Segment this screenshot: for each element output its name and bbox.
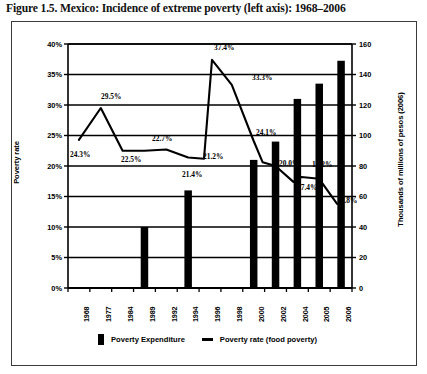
y-tick-left-30pct: 30% (36, 101, 62, 110)
legend-label-line: Poverty rate (food poverty) (220, 335, 317, 344)
x-tick-1998: 1998 (235, 307, 244, 322)
bar-swatch-icon (98, 334, 104, 345)
x-tick-1992: 1992 (170, 307, 179, 322)
value-label-24-1pct: 24.1% (256, 128, 276, 137)
y-tick-right-160: 160 (359, 40, 385, 49)
y-tick-right-20: 20 (359, 253, 385, 262)
x-tick-1994: 1994 (191, 307, 200, 322)
value-label-18-2pct: 18.2% (312, 160, 332, 169)
value-label-13-8pct: 13.8% (337, 196, 357, 205)
bar-2004 (294, 99, 302, 288)
value-label-22-5pct: 22.5% (121, 155, 141, 164)
y-tick-right-120: 120 (359, 101, 385, 110)
value-label-29-5pct: 29.5% (101, 92, 121, 101)
y-tick-left-35pct: 35% (36, 70, 62, 79)
value-label-22-7pct: 22.7% (152, 134, 172, 143)
y-tick-left-40pct: 40% (36, 40, 62, 49)
y-tick-left-20pct: 20% (36, 162, 62, 171)
y-axis-left-title: Poverty rate (12, 115, 21, 211)
bar-1989 (141, 227, 149, 288)
x-tick-2002: 2002 (279, 307, 288, 322)
y-tick-left-15pct: 15% (36, 192, 62, 201)
y-tick-right-140: 140 (359, 70, 385, 79)
y-tick-right-100: 100 (359, 131, 385, 140)
x-tick-1968: 1968 (82, 307, 91, 322)
chart-legend: Poverty Expenditure Poverty rate (food p… (98, 331, 348, 347)
bar-2000 (250, 160, 258, 288)
y-tick-left-0pct: 0% (36, 284, 62, 293)
x-tick-1977: 1977 (104, 307, 113, 322)
x-tick-2005: 2005 (322, 307, 331, 322)
value-label-37-4pct: 37.4% (214, 43, 234, 52)
y-tick-right-40: 40 (359, 223, 385, 232)
value-label-20-0pct: 20.0% (279, 159, 299, 168)
y-tick-left-10pct: 10% (36, 223, 62, 232)
x-tick-1989: 1989 (148, 307, 157, 322)
x-tick-2004: 2004 (301, 307, 310, 322)
bar-1994 (184, 190, 192, 288)
y-tick-right-60: 60 (359, 192, 385, 201)
y-axis-right-title: Thousands of millions of pesos (2006) (396, 80, 405, 240)
y-tick-left-25pct: 25% (36, 131, 62, 140)
bar-2006 (337, 61, 345, 288)
value-label-21-4pct: 21.4% (182, 170, 202, 179)
y-tick-left-5pct: 5% (36, 253, 62, 262)
y-tick-right-0: 0 (359, 284, 385, 293)
bar-series (141, 61, 345, 288)
legend-label-bar: Poverty Expenditure (111, 335, 185, 344)
value-label-24-3pct: 24.3% (70, 150, 90, 159)
line-swatch-icon (202, 338, 213, 341)
x-tick-2000: 2000 (257, 307, 266, 322)
value-label-33-3pct: 33.3% (252, 73, 272, 82)
value-label-21-2pct: 21.2% (203, 152, 223, 161)
y-tick-right-80: 80 (359, 162, 385, 171)
value-label-17-4pct: 17.4% (297, 183, 317, 192)
x-tick-1996: 1996 (213, 307, 222, 322)
x-tick-2006: 2006 (344, 307, 353, 322)
x-tick-1984: 1984 (126, 307, 135, 322)
